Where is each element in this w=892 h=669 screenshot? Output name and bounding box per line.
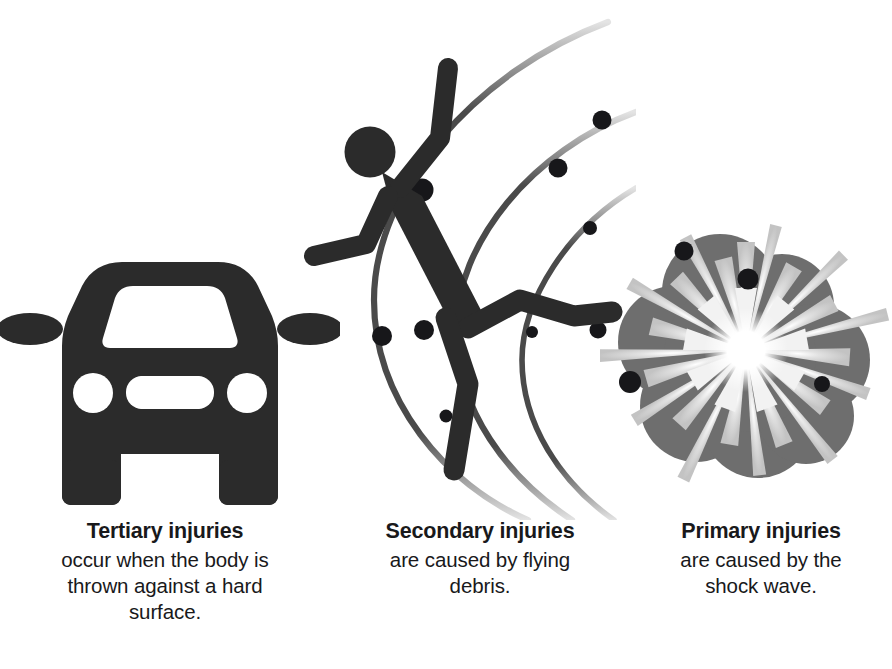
caption-row: Tertiary injuries occur when the body is… [0,518,892,669]
caption-title-primary: Primary injuries [630,518,892,545]
caption-line: are caused by the [630,547,892,573]
caption-title-tertiary: Tertiary injuries [0,518,330,545]
caption-body-primary: are caused by the shock wave. [630,547,892,599]
caption-primary: Primary injuries are caused by the shock… [630,518,892,599]
caption-body-tertiary: occur when the body is thrown against a … [0,547,330,624]
caption-secondary: Secondary injuries are caused by flying … [330,518,630,599]
caption-tertiary: Tertiary injuries occur when the body is… [0,518,330,625]
caption-line: are caused by flying [330,547,630,573]
caption-title-secondary: Secondary injuries [330,518,630,545]
explosion-burst-icon [600,210,892,500]
caption-body-secondary: are caused by flying debris. [330,547,630,599]
caption-line: surface. [0,599,330,625]
caption-line: shock wave. [630,573,892,599]
thrown-person-with-shockwave-icon [296,0,636,520]
caption-line: occur when the body is [0,547,330,573]
diagram-canvas: Tertiary injuries occur when the body is… [0,0,892,669]
car-front-icon [0,250,340,505]
caption-line: debris. [330,573,630,599]
caption-line: thrown against a hard [0,573,330,599]
